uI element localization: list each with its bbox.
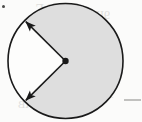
figure-canvas: ΛΓ9ІІБЕЗИДОСГХНИЛАВ9: [0, 0, 142, 122]
circle-sector-diagram: [0, 0, 142, 122]
center-point-dot: [62, 58, 68, 64]
corner-speck: [2, 5, 5, 8]
